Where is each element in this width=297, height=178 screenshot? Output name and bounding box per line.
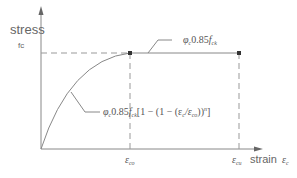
- peak-point: [128, 51, 132, 55]
- tick-eco: εco: [125, 154, 135, 166]
- parabolic-curve: [41, 53, 130, 149]
- x-axis: [41, 147, 263, 152]
- stress-strain-diagram: stress fc strain εc εco εcu φc0.85fck φc…: [0, 0, 297, 178]
- ultimate-point: [237, 51, 241, 55]
- plateau-annotation: φc0.85fck: [183, 34, 217, 46]
- curve-annotation: φc0.85fck[1 − (1 − (εc/εco))n]: [103, 106, 210, 118]
- x-axis-label: strain: [250, 153, 277, 165]
- y-axis-arrow-icon: [39, 6, 44, 15]
- x-axis-symbol: εc: [282, 154, 289, 166]
- plateau-leader: [148, 40, 172, 53]
- curve-leader: [71, 92, 100, 112]
- x-axis-arrow-icon: [254, 147, 263, 152]
- y-axis-label: stress: [10, 22, 45, 37]
- tick-ecu: εcu: [232, 154, 242, 166]
- y-axis-sublabel: fc: [18, 41, 24, 50]
